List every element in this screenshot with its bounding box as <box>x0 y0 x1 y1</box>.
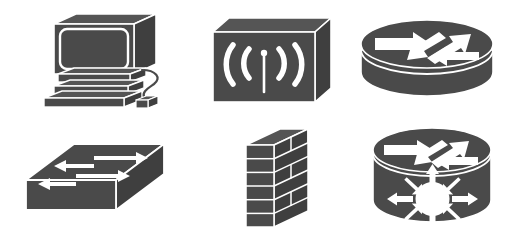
workstation-monitor <box>54 14 156 74</box>
workstation-keyboard <box>44 91 142 107</box>
router-icon[interactable] <box>355 12 500 112</box>
network-switch-icon[interactable] <box>20 130 170 235</box>
firewall-icon[interactable] <box>240 125 315 235</box>
ap-body <box>213 18 331 102</box>
monitor-screen <box>60 29 128 69</box>
network-icon-grid <box>0 0 513 249</box>
hub-center-circle <box>416 182 450 216</box>
multilayer-switch-icon[interactable] <box>365 122 500 237</box>
workstation-icon[interactable] <box>30 8 170 116</box>
wireless-access-point-icon[interactable] <box>205 12 340 112</box>
workstation-chassis <box>54 68 146 94</box>
